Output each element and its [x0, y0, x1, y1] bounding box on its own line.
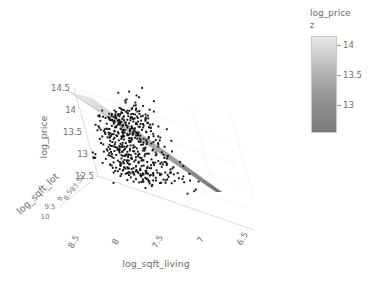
scatter-point[interactable]	[146, 167, 148, 169]
scatter-point[interactable]	[124, 122, 126, 124]
scatter-point[interactable]	[135, 178, 137, 180]
scatter-point[interactable]	[118, 139, 120, 141]
scatter-point[interactable]	[108, 146, 110, 148]
scatter-point[interactable]	[132, 113, 134, 115]
scatter-point[interactable]	[179, 161, 181, 163]
scatter-point[interactable]	[140, 139, 142, 141]
scatter-point[interactable]	[103, 151, 105, 153]
scatter-point[interactable]	[143, 159, 145, 161]
scatter-point[interactable]	[182, 175, 184, 177]
scatter-point[interactable]	[137, 155, 139, 157]
scatter-point[interactable]	[168, 176, 170, 178]
scatter-point[interactable]	[119, 123, 121, 125]
scatter-point[interactable]	[135, 156, 137, 158]
scatter-point[interactable]	[165, 179, 167, 181]
scatter-point[interactable]	[109, 136, 111, 138]
scatter-point[interactable]	[135, 109, 137, 111]
scatter-point[interactable]	[138, 141, 140, 143]
scatter-point[interactable]	[135, 104, 137, 106]
scatter-point[interactable]	[157, 172, 159, 174]
scatter-point[interactable]	[164, 146, 166, 148]
scatter-markers[interactable]	[92, 87, 200, 195]
scatter-point[interactable]	[134, 146, 136, 148]
scatter-point[interactable]	[115, 154, 117, 156]
scatter-point[interactable]	[120, 158, 122, 160]
scatter-point[interactable]	[117, 160, 119, 162]
scatter-point[interactable]	[128, 174, 130, 176]
scatter-point[interactable]	[142, 127, 144, 129]
scatter-point[interactable]	[97, 129, 99, 131]
scatter-point[interactable]	[157, 126, 159, 128]
scatter-point[interactable]	[126, 151, 128, 153]
scatter-point[interactable]	[135, 165, 137, 167]
scatter-point[interactable]	[144, 155, 146, 157]
scatter-point[interactable]	[145, 139, 147, 141]
scatter-point[interactable]	[182, 165, 184, 167]
scatter-point[interactable]	[111, 165, 113, 167]
scatter-point[interactable]	[141, 87, 143, 89]
scatter-point[interactable]	[152, 162, 154, 164]
colorbar-gradient[interactable]	[311, 36, 337, 133]
scatter-point[interactable]	[143, 142, 145, 144]
scatter-point[interactable]	[153, 135, 155, 137]
scatter-point[interactable]	[157, 143, 159, 145]
scatter-point[interactable]	[126, 172, 128, 174]
scatter-point[interactable]	[113, 172, 115, 174]
scatter-point[interactable]	[127, 156, 129, 158]
scatter-point[interactable]	[94, 153, 96, 155]
scatter-point[interactable]	[113, 161, 115, 163]
scatter-point[interactable]	[114, 150, 116, 152]
scatter-point[interactable]	[144, 153, 146, 155]
scatter-point[interactable]	[131, 116, 133, 118]
scatter-point[interactable]	[160, 173, 162, 175]
scatter-point[interactable]	[161, 162, 163, 164]
scatter-point[interactable]	[122, 155, 124, 157]
scatter-point[interactable]	[134, 137, 136, 139]
scatter-point[interactable]	[114, 126, 116, 128]
scatter-point[interactable]	[123, 129, 125, 131]
scatter-point[interactable]	[113, 182, 115, 184]
scatter-point[interactable]	[99, 120, 101, 122]
scatter-point[interactable]	[166, 158, 168, 160]
scatter-point[interactable]	[111, 141, 113, 143]
scatter-point[interactable]	[92, 151, 94, 153]
scatter-point[interactable]	[126, 119, 128, 121]
scatter-point[interactable]	[101, 110, 103, 112]
scatter-point[interactable]	[118, 119, 120, 121]
scatter-point[interactable]	[120, 128, 122, 130]
scatter-point[interactable]	[109, 164, 111, 166]
scatter-point[interactable]	[111, 125, 113, 127]
scatter-point[interactable]	[126, 179, 128, 181]
scatter-point[interactable]	[156, 169, 158, 171]
scatter-point[interactable]	[137, 151, 139, 153]
scatter-point[interactable]	[120, 108, 122, 110]
scatter-point[interactable]	[131, 168, 133, 170]
scatter-point[interactable]	[181, 178, 183, 180]
scatter-point[interactable]	[141, 181, 143, 183]
scatter-point[interactable]	[133, 181, 135, 183]
scatter-point[interactable]	[120, 121, 122, 123]
scatter-point[interactable]	[127, 112, 129, 114]
scatter-point[interactable]	[140, 173, 142, 175]
scatter-point[interactable]	[157, 146, 159, 148]
scatter-point[interactable]	[129, 130, 131, 132]
scatter-point[interactable]	[114, 170, 116, 172]
scatter-point[interactable]	[130, 137, 132, 139]
scatter-point[interactable]	[98, 127, 100, 129]
scatter-point[interactable]	[151, 185, 153, 187]
scatter-point[interactable]	[153, 111, 155, 113]
scatter-point[interactable]	[151, 158, 153, 160]
scatter-point[interactable]	[152, 133, 154, 135]
scatter-point[interactable]	[126, 110, 128, 112]
scatter-point[interactable]	[148, 126, 150, 128]
scatter-point[interactable]	[136, 116, 138, 118]
scatter-point[interactable]	[141, 129, 143, 131]
scatter-point[interactable]	[133, 172, 135, 174]
scatter-point[interactable]	[140, 123, 142, 125]
scatter-point[interactable]	[130, 113, 132, 115]
scatter-point[interactable]	[170, 140, 172, 142]
scatter-point[interactable]	[121, 151, 123, 153]
scatter-point[interactable]	[161, 166, 163, 168]
scatter-point[interactable]	[119, 161, 121, 163]
scene-3d[interactable]: 14.5 14 13.5 13 12.5 log_price 7 7.5 8 8…	[0, 0, 300, 284]
